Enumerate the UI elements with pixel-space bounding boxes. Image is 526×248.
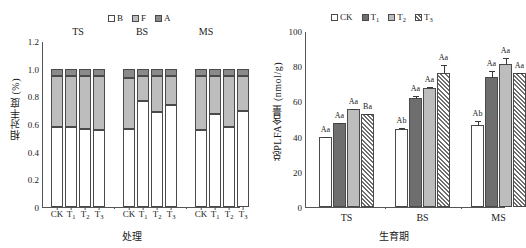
- bar-segment-B: [151, 112, 163, 207]
- significance-label: Ab: [473, 110, 483, 118]
- x-tick-BS: BS: [416, 207, 428, 223]
- x-tick-MS-T3: T3: [239, 207, 248, 219]
- y-tick-right-100: 100: [289, 28, 307, 37]
- significance-label: Aa: [321, 126, 330, 134]
- y-tick-left-0.2: 0.2: [28, 176, 43, 185]
- x-tick-BS-T1: T1: [139, 207, 148, 219]
- stacked-bar: [237, 41, 249, 207]
- significance-label: Aa: [439, 54, 448, 62]
- grouped-bar-MS-T1: [485, 77, 498, 207]
- x-tick-TS-T2: T2: [81, 207, 90, 219]
- error-bar: [340, 123, 341, 125]
- significance-label: Aa: [501, 47, 510, 55]
- legend-swatch-CK: [331, 14, 338, 21]
- bar-segment-F: [209, 76, 221, 113]
- grouped-bar-TS-T3: [361, 114, 374, 207]
- stacked-bar: [51, 41, 63, 207]
- legend-label-CK: CK: [340, 13, 353, 22]
- bar-segment-B: [79, 129, 91, 207]
- error-bar: [444, 65, 445, 75]
- x-tick-MS: MS: [491, 207, 505, 223]
- bar-segment-A: [123, 69, 135, 79]
- y-tick-left-1.0: 1.0: [28, 65, 43, 74]
- grouped-bar-MS-T2: [499, 64, 512, 207]
- y-tick-left-0.6: 0.6: [28, 121, 43, 130]
- legend-label-B: B: [117, 14, 123, 23]
- bar-segment-F: [237, 76, 249, 111]
- legend-item-A: A: [155, 14, 171, 23]
- bar-segment-F: [93, 76, 105, 130]
- bar-segment-F: [165, 76, 177, 105]
- legend-left: B F A: [108, 14, 180, 23]
- x-tick-MS-T2: T2: [225, 207, 234, 219]
- bar-segment-A: [51, 69, 63, 77]
- y-tick-right-0: 0: [298, 204, 307, 213]
- legend-swatch-T2: [388, 14, 395, 21]
- legend-item-CK: CK: [331, 13, 353, 22]
- stacked-bar: [123, 41, 135, 207]
- x-tick-TS: TS: [341, 207, 353, 223]
- plot-area-left: 0 0.2 0.4 0.6 0.8 1.0 1.2 TS BS MS CKT1T…: [42, 42, 240, 208]
- y-tick-left-0: 0: [35, 204, 44, 213]
- bar-segment-B: [51, 127, 63, 207]
- significance-label: Aa: [487, 60, 496, 68]
- legend-item-F: F: [132, 14, 146, 23]
- bar-segment-B: [195, 130, 207, 207]
- error-bar: [368, 114, 369, 115]
- bar-segment-A: [137, 69, 149, 77]
- panel-stacked-bar-chart: B F A 相对丰度 (%) 0 0.2 0.4 0.6 0.8 1.0 1.2…: [0, 0, 263, 248]
- y-tick-left-0.8: 0.8: [28, 93, 43, 102]
- x-tick-MS-CK: CK: [195, 207, 208, 219]
- error-bar: [402, 128, 403, 129]
- y-tick-right-60: 60: [293, 98, 306, 107]
- significance-label: Aa: [349, 98, 358, 106]
- group-label-TS: TS: [72, 26, 84, 37]
- grouped-bar-TS-T2: [347, 109, 360, 207]
- stacked-bar: [65, 41, 77, 207]
- legend-swatch-A: [155, 15, 162, 22]
- panel-grouped-bar-chart: CK T1 T2 T3 总PLFA含量 (nmol/g) 0 20 40 60 …: [263, 0, 525, 248]
- legend-label-T2: T2: [397, 13, 406, 22]
- x-tick-BS-T3: T3: [167, 207, 176, 219]
- x-tick-BS-T2: T2: [153, 207, 162, 219]
- bar-segment-A: [165, 69, 177, 77]
- grouped-bar-MS-CK: [471, 125, 484, 207]
- y-tick-left-1.2: 1.2: [28, 38, 43, 47]
- grouped-bar-BS-T3: [437, 73, 450, 207]
- group-label-MS: MS: [199, 26, 213, 37]
- error-bar: [354, 109, 355, 110]
- bar-segment-A: [93, 69, 105, 77]
- legend-label-T3: T3: [424, 13, 433, 22]
- bar-segment-B: [165, 105, 177, 207]
- bar-segment-A: [209, 69, 221, 77]
- bar-segment-F: [151, 76, 163, 111]
- bar-segment-F: [137, 76, 149, 101]
- stacked-bar: [165, 41, 177, 207]
- bar-segment-B: [93, 130, 105, 207]
- significance-label: Ba: [363, 103, 372, 111]
- bar-segment-F: [65, 76, 77, 126]
- bar-segment-A: [195, 69, 207, 77]
- stacked-bar: [93, 41, 105, 207]
- group-label-BS: BS: [136, 26, 148, 37]
- x-tick-MS-T1: T1: [211, 207, 220, 219]
- grouped-bar-MS-T3: [513, 73, 526, 207]
- error-bar: [478, 121, 479, 126]
- x-tick-TS-T3: T3: [95, 207, 104, 219]
- stacked-bar: [79, 41, 91, 207]
- stacked-bar: [223, 41, 235, 207]
- x-tick-TS-CK: CK: [51, 207, 64, 219]
- x-axis-label-left: 处理: [0, 228, 263, 243]
- bar-segment-A: [237, 69, 249, 77]
- x-axis-label-right: 生育期: [263, 228, 525, 243]
- bar-segment-F: [123, 78, 135, 128]
- stacked-bar: [151, 41, 163, 207]
- legend-right: CK T1 T2 T3: [331, 13, 442, 22]
- x-tick-TS-T1: T1: [67, 207, 76, 219]
- bar-segment-B: [65, 127, 77, 207]
- significance-label: Aa: [425, 76, 434, 84]
- grouped-bar-BS-T2: [423, 88, 436, 207]
- y-tick-right-20: 20: [293, 168, 306, 177]
- legend-swatch-B: [108, 15, 115, 22]
